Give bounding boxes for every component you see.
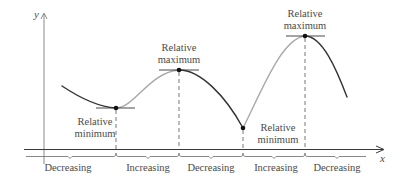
label-min-2-line1: Relative [261,122,296,133]
function-curve [62,36,347,128]
y-axis: y [33,8,47,164]
interval-labels: Decreasing Increasing Decreasing Increas… [44,162,361,173]
segment-increasing-1 [116,70,179,108]
label-max-2-line2: maximum [284,20,327,31]
extremum-points [114,34,308,131]
interval-braces [26,153,366,159]
label-min-1-line2: minimum [75,128,116,139]
segment-decreasing-3 [305,36,347,97]
label-max-1-line1: Relative [162,42,197,53]
point-relative-min-1 [114,106,119,111]
interval-label-3: Decreasing [187,162,235,173]
diagram-canvas: y x [0,0,405,182]
segment-decreasing-2 [179,70,243,128]
interval-label-5: Decreasing [313,162,361,173]
tangent-lines [96,36,325,108]
point-relative-min-2 [241,126,246,131]
diagram-increasing-decreasing: y x [0,0,405,182]
y-axis-label: y [33,8,39,20]
label-max-2-line1: Relative [288,8,323,19]
label-min-2-line2: minimum [258,134,299,145]
interval-label-4: Increasing [254,162,298,173]
label-min-1-line1: Relative [78,116,113,127]
extremum-labels: Relative minimum Relative maximum Relati… [75,8,327,145]
interval-label-1: Decreasing [44,162,92,173]
segment-decreasing-1 [62,86,116,108]
segment-increasing-2 [243,36,305,128]
point-relative-max-1 [177,68,182,73]
point-relative-max-2 [303,34,308,39]
interval-label-2: Increasing [126,162,170,173]
label-max-1-line2: maximum [158,54,201,65]
x-axis-label: x [379,152,385,164]
